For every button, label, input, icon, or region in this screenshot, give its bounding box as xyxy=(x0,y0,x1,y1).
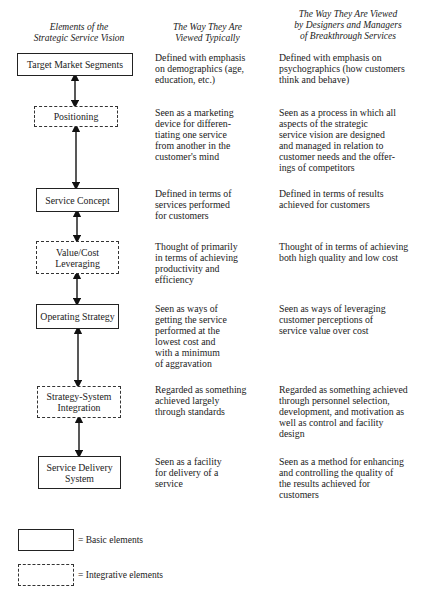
legend-integrative-label: = Integrative elements xyxy=(78,570,163,581)
breakthrough-strategy-system-integration: Regarded as something achieved through p… xyxy=(279,384,424,439)
legend-basic-swatch xyxy=(18,529,74,551)
element-target-market-segments: Target Market Segments xyxy=(17,53,133,76)
breakthrough-service-delivery-system: Seen as a method for enhancing and contr… xyxy=(279,456,424,500)
breakthrough-service-concept: Defined in terms of results achieved for… xyxy=(279,188,424,210)
element-service-concept: Service Concept xyxy=(36,188,119,212)
connector-arrows xyxy=(0,0,428,593)
element-operating-strategy: Operating Strategy xyxy=(36,304,119,329)
element-value-cost-leveraging: Value/Cost Leveraging xyxy=(36,241,119,274)
breakthrough-value-cost-leveraging: Thought of in terms of achieving both hi… xyxy=(279,241,424,263)
typical-value-cost-leveraging: Thought of primarily in terms of achievi… xyxy=(155,241,265,285)
typical-target-market-segments: Defined with emphasis on demographics (a… xyxy=(155,52,265,85)
typical-positioning: Seen as a marketing device for differen-… xyxy=(155,107,265,162)
element-service-delivery-system: Service Delivery System xyxy=(38,456,121,489)
legend-integrative-swatch xyxy=(18,564,74,586)
element-strategy-system-integration: Strategy-System Integration xyxy=(37,386,121,418)
typical-service-delivery-system: Seen as a facility for delivery of a ser… xyxy=(155,456,265,489)
typical-service-concept: Defined in terms of services performed f… xyxy=(155,188,265,221)
typical-strategy-system-integration: Regarded as something achieved largely t… xyxy=(155,384,265,417)
breakthrough-operating-strategy: Seen as ways of leveraging customer perc… xyxy=(279,303,424,336)
typical-operating-strategy: Seen as ways of getting the service perf… xyxy=(155,303,265,369)
legend-basic-label: = Basic elements xyxy=(78,535,143,546)
element-positioning: Positioning xyxy=(34,106,118,127)
breakthrough-target-market-segments: Defined with emphasis on psychographics … xyxy=(279,52,424,85)
breakthrough-positioning: Seen as a process in which all aspects o… xyxy=(279,107,424,173)
